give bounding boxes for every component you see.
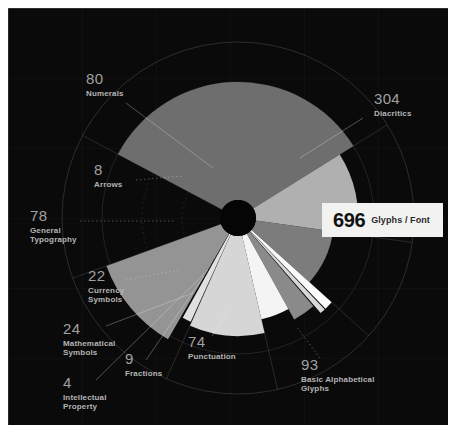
total-callout: 696 Glyphs / Font — [322, 203, 443, 237]
leader-line — [296, 326, 320, 358]
callout-label: Glyphs / Font — [371, 215, 430, 225]
callout-value: 696 — [333, 209, 365, 232]
chart-center-hub — [220, 200, 256, 236]
chart-panel: 80 Numerals 304 Diacritics 8 Arrows 78 G… — [8, 8, 448, 425]
screenshot-root: 80 Numerals 304 Diacritics 8 Arrows 78 G… — [0, 0, 456, 437]
